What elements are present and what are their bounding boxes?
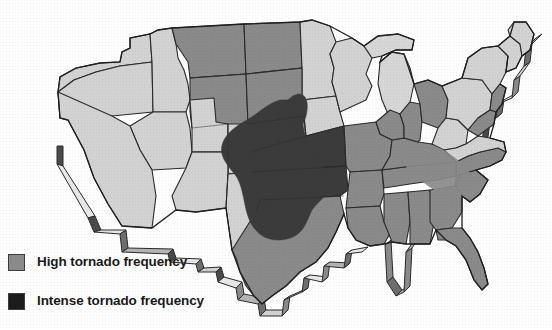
legend-label-intense-frequency: Intense tornado frequency	[37, 294, 204, 308]
state-arkansas	[346, 170, 384, 208]
legend-swatch-high-frequency	[8, 254, 25, 271]
legend-item-high: High tornado frequency	[8, 248, 248, 276]
tornado-frequency-figure: High tornado frequency Intense tornado f…	[0, 0, 552, 330]
legend-label-high-frequency: High tornado frequency	[37, 255, 187, 269]
map-legend: High tornado frequency Intense tornado f…	[8, 248, 248, 326]
state-north-dakota	[244, 22, 302, 74]
legend-item-intense: Intense tornado frequency	[8, 287, 248, 315]
legend-swatch-intense-frequency	[8, 293, 25, 310]
state-minnesota	[300, 20, 336, 100]
